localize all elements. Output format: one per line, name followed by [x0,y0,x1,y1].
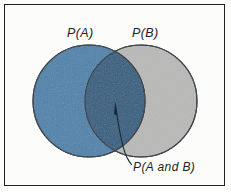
venn-diagram-canvas [0,0,231,192]
set-b-label: P(B) [132,26,159,40]
intersection-label: P(A and B) [133,160,195,174]
venn-diagram-figure: P(A) P(B) P(A and B) [0,0,231,192]
set-a-label: P(A) [67,26,94,40]
